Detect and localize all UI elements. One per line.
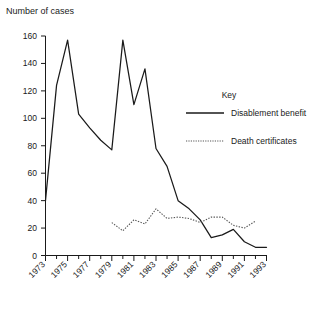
x-tick-label: 1985 <box>159 259 180 280</box>
x-tick-label: 1983 <box>137 259 158 280</box>
x-axis-ticks <box>46 256 267 262</box>
y-tick-label: 20 <box>28 223 38 233</box>
y-tick-label: 100 <box>23 113 37 123</box>
y-tick-label: 140 <box>23 58 37 68</box>
series-death-certificates <box>112 209 256 231</box>
chart-container: Number of cases 020406080100120140160 19… <box>0 0 326 309</box>
y-axis-title: Number of cases <box>6 6 75 16</box>
x-tick-label: 1979 <box>93 259 114 280</box>
y-tick-label: 40 <box>28 196 38 206</box>
chart-legend: Key Disablement benefit Death certificat… <box>186 90 307 146</box>
legend-title: Key <box>222 90 237 100</box>
x-tick-label: 1975 <box>49 259 70 280</box>
y-axis-ticks <box>41 36 46 256</box>
y-tick-label: 0 <box>32 251 37 261</box>
y-tick-label: 160 <box>23 31 37 41</box>
x-tick-label: 1987 <box>181 259 202 280</box>
x-tick-label: 1977 <box>71 259 92 280</box>
y-tick-label: 120 <box>23 86 37 96</box>
x-tick-label: 1981 <box>115 259 136 280</box>
y-tick-label: 60 <box>28 168 38 178</box>
x-tick-label: 1973 <box>26 259 47 280</box>
y-axis-tick-labels: 020406080100120140160 <box>23 31 37 261</box>
legend-label-death-certificates: Death certificates <box>231 136 297 146</box>
line-chart: Number of cases 020406080100120140160 19… <box>0 0 326 309</box>
legend-label-disablement-benefit: Disablement benefit <box>231 108 307 118</box>
x-tick-label: 1993 <box>247 259 268 280</box>
x-axis-tick-labels: 1973197519771979198119831985198719891991… <box>26 259 268 280</box>
x-tick-label: 1991 <box>225 259 246 280</box>
x-tick-label: 1989 <box>203 259 224 280</box>
y-tick-label: 80 <box>28 141 38 151</box>
